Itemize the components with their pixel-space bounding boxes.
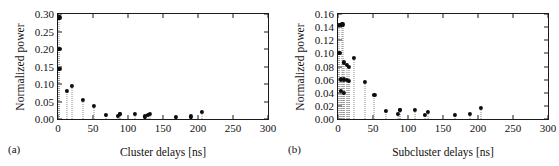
x-tick-label: 100 (400, 122, 417, 134)
x-tick-mark (198, 115, 199, 119)
x-axis-label-b: Subcluster delays [ns] (337, 146, 549, 158)
x-tick-label: 200 (470, 122, 487, 134)
chart-panel-a: Normalized power 0.000.050.100.150.200.2… (0, 0, 279, 166)
y-tick-mark (264, 84, 268, 85)
data-point-marker (70, 84, 74, 88)
data-point-marker (58, 15, 61, 19)
panel-tag-b: (b) (288, 143, 301, 155)
x-tick-mark (548, 14, 549, 18)
y-tick-label: 0.14 (315, 21, 334, 33)
x-tick-label: 100 (120, 122, 137, 134)
y-tick-label: 0.04 (315, 87, 334, 99)
x-tick-mark (443, 14, 444, 18)
data-point-marker (363, 80, 367, 84)
y-axis-label-a: Normalized power (14, 12, 28, 122)
chart-panel-b: Normalized power 0.000.020.040.060.080.1… (280, 0, 559, 166)
data-point-stem (349, 81, 350, 119)
y-tick-label: 0.00 (35, 113, 54, 125)
x-tick-label: 150 (435, 122, 452, 134)
data-point-marker (58, 67, 61, 71)
x-tick-mark (408, 115, 409, 119)
data-point-marker (384, 109, 388, 113)
y-tick-mark (264, 101, 268, 102)
data-point-marker (133, 112, 137, 116)
y-tick-label: 0.02 (315, 100, 334, 112)
data-point-stem (374, 95, 375, 119)
plot-canvas-b (338, 14, 548, 119)
y-tick-label: 0.08 (315, 61, 334, 73)
data-point-marker (468, 112, 472, 116)
data-point-stem (344, 93, 345, 119)
y-tick-mark (544, 66, 548, 67)
y-tick-label: 0.05 (35, 96, 54, 108)
data-point-marker (65, 89, 69, 93)
data-point-marker (372, 93, 376, 97)
y-tick-mark (544, 92, 548, 93)
x-tick-mark (443, 115, 444, 119)
y-tick-mark (544, 53, 548, 54)
x-tick-mark (163, 115, 164, 119)
data-point-marker (479, 106, 483, 110)
y-tick-mark (338, 14, 342, 15)
x-tick-label: 300 (540, 122, 557, 134)
data-point-marker (104, 113, 108, 117)
data-point-marker (58, 47, 61, 51)
data-point-stem (72, 86, 73, 119)
x-tick-mark (268, 115, 269, 119)
y-axis-label-b: Normalized power (294, 12, 308, 122)
y-tick-label: 0.12 (315, 34, 334, 46)
x-tick-mark (478, 14, 479, 18)
data-point-marker (341, 22, 345, 26)
x-tick-mark (408, 14, 409, 18)
data-point-marker (347, 79, 351, 83)
x-tick-label: 200 (190, 122, 207, 134)
x-tick-label: 50 (368, 122, 379, 134)
y-tick-mark (544, 105, 548, 106)
y-tick-label: 0.10 (315, 47, 334, 59)
x-tick-label: 0 (335, 122, 341, 134)
x-tick-mark (548, 115, 549, 119)
data-point-stem (59, 69, 60, 119)
y-tick-label: 0.25 (35, 26, 54, 38)
y-tick-label: 0.06 (315, 74, 334, 86)
x-tick-label: 150 (155, 122, 172, 134)
x-tick-mark (268, 14, 269, 18)
y-tick-mark (264, 31, 268, 32)
x-axis-label-a: Cluster delays [ns] (57, 146, 269, 158)
data-point-stem (354, 58, 355, 119)
data-point-marker (423, 113, 427, 117)
data-point-stem (340, 91, 341, 119)
data-point-marker (148, 112, 152, 116)
x-tick-mark (233, 14, 234, 18)
x-tick-label: 0 (55, 122, 61, 134)
data-point-marker (413, 108, 417, 112)
data-point-marker (118, 112, 122, 116)
data-point-marker (352, 56, 356, 60)
x-tick-mark (233, 115, 234, 119)
x-tick-mark (128, 14, 129, 18)
x-tick-mark (163, 14, 164, 18)
y-tick-label: 0.30 (35, 8, 54, 20)
y-tick-mark (544, 27, 548, 28)
data-point-stem (364, 82, 365, 119)
data-point-marker (347, 65, 351, 69)
x-tick-mark (373, 14, 374, 18)
y-tick-mark (544, 79, 548, 80)
x-tick-label: 250 (505, 122, 522, 134)
x-tick-label: 300 (260, 122, 277, 134)
y-tick-mark (264, 49, 268, 50)
figure-container: Normalized power 0.000.050.100.150.200.2… (0, 0, 559, 166)
x-tick-mark (478, 115, 479, 119)
data-point-stem (347, 80, 348, 119)
data-point-marker (92, 104, 96, 108)
y-tick-label: 0.20 (35, 43, 54, 55)
x-tick-mark (198, 14, 199, 18)
data-point-marker (200, 110, 204, 114)
x-tick-label: 250 (225, 122, 242, 134)
panel-tag-a: (a) (8, 143, 20, 155)
y-tick-mark (264, 66, 268, 67)
y-tick-label: 0.15 (35, 61, 54, 73)
data-point-marker (453, 113, 457, 117)
data-point-marker (80, 98, 84, 102)
x-tick-mark (128, 115, 129, 119)
